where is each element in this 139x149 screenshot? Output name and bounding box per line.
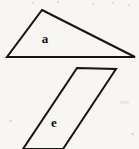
scan-speck: [92, 3, 94, 5]
scan-speck: [112, 2, 114, 4]
scan-speck: [120, 101, 129, 104]
shape-label-e: e: [51, 116, 57, 129]
figure-canvas: a e: [0, 0, 139, 149]
scan-speck: [32, 2, 34, 4]
shapes-svg: [0, 0, 139, 149]
triangle-shape-a: [7, 10, 135, 57]
scan-speck: [9, 120, 12, 122]
scan-speck: [128, 4, 130, 6]
parallelogram-shape-e: [23, 68, 116, 149]
scan-speck: [57, 1, 59, 3]
scan-speck: [131, 133, 134, 135]
shape-label-a: a: [42, 32, 49, 45]
